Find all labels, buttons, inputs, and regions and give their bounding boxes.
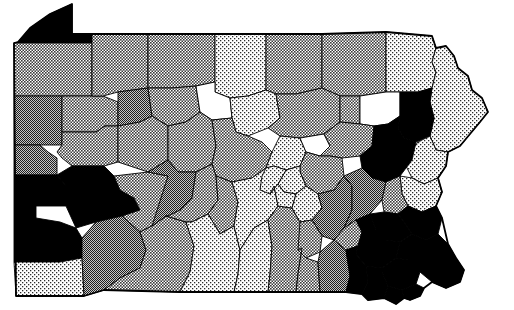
county-mercer[interactable] xyxy=(14,96,62,145)
county-erie[interactable] xyxy=(14,4,92,43)
county-sullivan[interactable] xyxy=(340,96,360,124)
county-potter[interactable] xyxy=(215,34,266,98)
pennsylvania-county-choropleth xyxy=(0,0,514,310)
county-beaver[interactable] xyxy=(14,175,66,206)
county-lackawanna[interactable] xyxy=(398,88,434,142)
county-bradford[interactable] xyxy=(322,32,386,96)
county-crawford[interactable] xyxy=(14,43,92,96)
county-warren[interactable] xyxy=(92,34,148,96)
county-franklin[interactable] xyxy=(268,206,302,292)
county-jefferson[interactable] xyxy=(118,116,168,172)
county-butler[interactable] xyxy=(57,126,118,166)
county-lawrence[interactable] xyxy=(14,145,57,175)
county-susquehanna[interactable] xyxy=(386,32,436,92)
county-wayne[interactable] xyxy=(430,46,488,152)
county-mckean[interactable] xyxy=(148,34,215,88)
county-tioga[interactable] xyxy=(266,34,322,94)
map-container xyxy=(0,0,514,310)
county-greene[interactable] xyxy=(14,258,84,296)
